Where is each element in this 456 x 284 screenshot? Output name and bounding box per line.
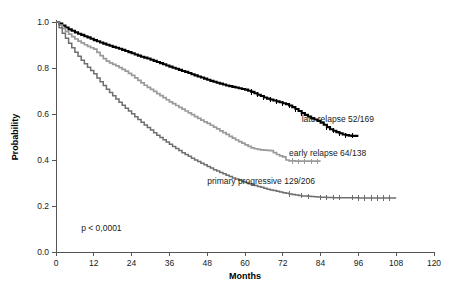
axes — [56, 20, 434, 252]
km-step-line — [56, 22, 396, 198]
x-tick-label: 48 — [202, 258, 212, 268]
x-tick-label: 0 — [54, 258, 59, 268]
survival-plot: 012243648607284961081200.00.20.40.60.81.… — [0, 0, 456, 284]
x-tick-label: 72 — [278, 258, 288, 268]
series-label-late-relapse: late relapse 52/169 — [302, 114, 375, 124]
x-tick-label: 108 — [389, 258, 403, 268]
series-label-primary-progressive: primary progressive 129/206 — [207, 176, 315, 186]
km-curve-primary-progressive: primary progressive 129/206 — [56, 22, 396, 201]
x-tick-label: 60 — [240, 258, 250, 268]
km-step-line — [56, 22, 321, 161]
x-tick-label: 12 — [89, 258, 99, 268]
x-tick-label: 96 — [354, 258, 364, 268]
y-tick-label: 0.0 — [37, 247, 49, 257]
annotation-p-value: p < 0,0001 — [81, 223, 122, 233]
y-tick-label: 0.8 — [37, 63, 49, 73]
y-tick-label: 0.2 — [37, 201, 49, 211]
x-axis-ticks: 01224364860728496108120 — [54, 252, 442, 268]
y-axis-title: Probability — [10, 114, 20, 161]
x-tick-label: 120 — [427, 258, 441, 268]
y-tick-label: 0.6 — [37, 109, 49, 119]
x-tick-label: 24 — [127, 258, 137, 268]
kaplan-meier-figure: 012243648607284961081200.00.20.40.60.81.… — [0, 0, 456, 284]
x-tick-label: 84 — [316, 258, 326, 268]
x-axis-title: Months — [229, 271, 261, 281]
y-tick-label: 1.0 — [37, 17, 49, 27]
x-tick-label: 36 — [165, 258, 175, 268]
y-tick-label: 0.4 — [37, 155, 49, 165]
y-axis-ticks: 0.00.20.40.60.81.0 — [37, 17, 56, 257]
series-label-early-relapse: early relapse 64/138 — [289, 148, 366, 158]
km-curve-late-relapse: late relapse 52/169 — [56, 22, 374, 138]
